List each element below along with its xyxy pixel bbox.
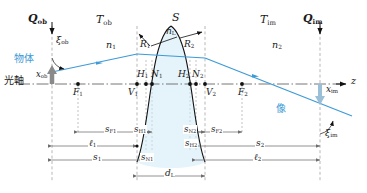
label-r1: R1 — [140, 40, 150, 50]
dim-label-s-H1: sH1 — [133, 125, 147, 134]
label-xi-ob: ξob — [56, 35, 69, 46]
label-s-surface: S — [172, 12, 180, 23]
label-v2: V2 — [206, 88, 216, 98]
label-nL: nL — [166, 27, 176, 37]
label-x-im: xim — [326, 85, 338, 95]
label-v1: V1 — [128, 88, 138, 98]
label-z-axis: z — [351, 76, 356, 86]
label-r2: R2 — [184, 40, 194, 50]
label-f1: F1 — [73, 88, 83, 98]
label-n1: n1 — [106, 40, 116, 51]
label-t-ob: Tob — [96, 14, 112, 26]
label-object-jp: 物体 — [14, 54, 34, 64]
label-q-im: Qim — [303, 13, 322, 25]
label-n2-point: N2 — [192, 70, 203, 80]
dim-label-s-N1: sN1 — [140, 153, 154, 162]
label-x-ob: xob — [36, 70, 47, 79]
label-image-jp: 像 — [276, 104, 286, 114]
label-f2: F2 — [238, 88, 248, 98]
optical-diagram-figure: Qob Tob S Tim Qim n1 nL n2 R1 R2 ξob ξim… — [0, 0, 367, 193]
dim-label-s-1: s1 — [92, 153, 102, 163]
object-arrow — [47, 65, 57, 84]
label-xi-im: ξim — [325, 128, 338, 139]
label-optical-axis-jp: 光軸 — [4, 76, 24, 86]
dim-label-s-2: s2 — [255, 139, 265, 149]
dim-label-s-F2: sF2 — [210, 125, 223, 134]
dim-label-ell-1: ℓ1 — [88, 139, 97, 149]
diagram-canvas — [0, 0, 367, 193]
dim-label-s-H2: sH2 — [184, 139, 198, 148]
xi-ob-arc — [52, 58, 64, 69]
label-q-ob: Qob — [28, 13, 47, 25]
label-h1: H1 — [137, 70, 148, 80]
label-t-im: Tim — [260, 14, 276, 26]
label-h2: H2 — [178, 70, 189, 80]
dim-label-s-N2: sN2 — [183, 125, 197, 134]
dim-label-ell-2: ℓ2 — [253, 153, 262, 163]
dim-label-s-F1: sF1 — [104, 125, 117, 134]
label-n2: n2 — [272, 40, 282, 51]
dim-label-d-L: dL — [164, 169, 175, 179]
label-n1-point: N1 — [151, 70, 162, 80]
